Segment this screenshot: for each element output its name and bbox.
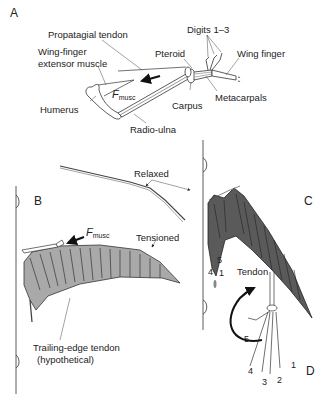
label-carpus: Carpus [172,100,203,111]
label-radio-ulna: Radio-ulna [130,124,176,135]
label-c-digit-1: 1 [219,268,224,278]
propatagial-tendon-line [118,67,186,71]
force-symbol: F [86,226,93,238]
label-d-digit-3: 3 [262,377,267,387]
label-d-digit-1: 1 [291,360,296,370]
panel-b-body [16,186,19,394]
force-subscript: musc [93,232,110,239]
label-d-digit-2: 2 [277,375,282,385]
label-pteroid: Pteroid [155,48,185,59]
label-trailing-edge-line1: Trailing-edge tendon [33,342,120,353]
panel-label-a: A [10,6,18,20]
label-tendon: Tendon [237,266,268,277]
label-d-digit-4: 4 [248,366,253,376]
digits-1-3 [206,53,222,70]
panel-c-foot [214,280,217,288]
panel-c-body [203,140,207,330]
label-trailing-edge-line2: (hypothetical) [37,354,94,365]
label-extensor-line1: Wing-finger [38,46,87,57]
label-digits: Digits 1–3 [187,24,229,35]
panel-a-skeleton [86,53,242,119]
label-c-digit-5: 5 [217,255,222,265]
force-subscript: musc [119,94,136,101]
label-relaxed: Relaxed [134,168,169,179]
label-metacarpals: Metacarpals [215,92,267,103]
label-c-digit-4: 4 [208,267,213,277]
panel-c-wing-membrane [208,188,312,318]
tendon-curved-arrow [231,288,262,341]
force-arrow-a [142,76,160,81]
label-d-digit-5: 5 [244,334,249,344]
label-tensioned: Tensioned [136,232,179,243]
metacarpals [194,70,212,80]
force-arrow-b [68,237,84,243]
label-extensor-line2: extensor muscle [38,58,107,69]
panel-label-b: B [34,194,42,208]
label-propatagial-tendon: Propatagial tendon [48,29,128,40]
label-humerus: Humerus [40,104,79,115]
panel-label-d: D [306,364,315,378]
panel-label-c: C [304,194,313,208]
panel-d-foot [248,272,280,374]
label-force-b: Fmusc [86,226,109,239]
label-force-a: Fmusc [112,88,135,101]
wing-finger-bone [212,70,236,80]
force-symbol: F [112,88,119,100]
label-wing-finger: Wing finger [237,48,285,59]
